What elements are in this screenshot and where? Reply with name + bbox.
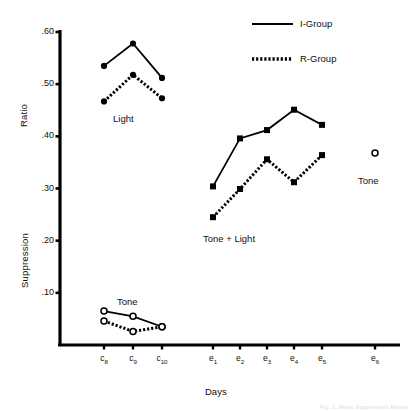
- y-axis-tick-label: .20: [30, 235, 54, 245]
- data-point-r-group: [237, 186, 243, 192]
- data-point-r-group: [130, 328, 136, 334]
- x-axis-tick-label: e6: [366, 353, 384, 365]
- y-axis-tick-label: .40: [30, 130, 54, 140]
- y-axis-label-suppression: Suppression: [19, 231, 30, 291]
- data-point-r-group: [291, 179, 297, 185]
- page-corner-artifact: Fig. 2. Mean Suppression Ratios: [320, 404, 408, 410]
- x-axis-tick-label: c10: [153, 353, 171, 365]
- y-axis-tick-label: .50: [30, 78, 54, 88]
- annotation-tone-test: Tone: [358, 175, 379, 186]
- legend-label-r-group: R-Group: [300, 53, 336, 64]
- y-axis-tick-label: .30: [30, 183, 54, 193]
- data-point-i-group: [130, 40, 136, 46]
- data-point-i-group: [159, 75, 165, 81]
- y-axis-tick-label: .10: [30, 287, 54, 297]
- data-point-i-group: [130, 313, 136, 319]
- series-line-r-group: [104, 75, 162, 102]
- data-point-i-group: [372, 150, 378, 156]
- data-point-i-group: [237, 135, 243, 141]
- annotation-tone-plus-light: Tone + Light: [203, 233, 255, 244]
- legend-label-i-group: I-Group: [300, 18, 332, 29]
- y-axis-tick-label: .60: [30, 26, 54, 36]
- series-group-tone: [101, 308, 165, 334]
- data-point-i-group: [291, 107, 297, 113]
- chart-plot-area: [0, 0, 410, 411]
- y-axis-label-ratio: Ratio: [18, 96, 29, 136]
- x-axis-tick-label: c9: [124, 353, 142, 365]
- data-point-i-group: [319, 122, 325, 128]
- series-line-i-group: [213, 110, 322, 187]
- data-point-r-group: [210, 214, 216, 220]
- x-axis-label-days: Days: [205, 386, 227, 397]
- data-point-i-group: [210, 183, 216, 189]
- series-group-tone-test-: [372, 150, 378, 156]
- x-axis-tick-label: e3: [258, 353, 276, 365]
- data-point-i-group: [101, 308, 107, 314]
- x-axis-tick-label: e2: [231, 353, 249, 365]
- x-axis-tick-label: e4: [285, 353, 303, 365]
- data-point-r-group: [101, 318, 107, 324]
- data-point-r-group: [159, 95, 165, 101]
- x-axis-tick-label: e5: [313, 353, 331, 365]
- annotation-light: Light: [113, 113, 134, 124]
- data-point-r-group: [159, 324, 165, 330]
- data-point-i-group: [264, 127, 270, 133]
- data-point-r-group: [319, 152, 325, 158]
- series-group-light: [101, 40, 165, 104]
- suppression-ratio-chart: Ratio Suppression Days I-Group R-Group L…: [0, 0, 410, 411]
- data-point-r-group: [130, 72, 136, 78]
- series-group-tone-light: [210, 107, 325, 220]
- data-point-r-group: [264, 156, 270, 162]
- x-axis-tick-label: e1: [204, 353, 222, 365]
- data-point-i-group: [101, 63, 107, 69]
- data-point-r-group: [101, 98, 107, 104]
- series-line-r-group: [213, 155, 322, 217]
- x-axis-tick-label: c8: [95, 353, 113, 365]
- annotation-tone-baseline: Tone: [117, 296, 138, 307]
